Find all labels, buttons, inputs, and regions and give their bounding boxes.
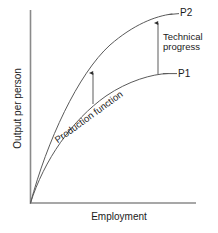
production-function-diagram: P2 P1 Technicalprogress Production funct… — [0, 0, 218, 233]
curve-p1 — [31, 74, 169, 204]
y-axis-label: Output per person — [13, 54, 24, 162]
x-axis-label: Employment — [64, 212, 174, 223]
technical-progress-line-2: progress — [163, 42, 203, 52]
curve-p2-leader — [168, 14, 179, 15]
curve-label-p1: P1 — [178, 69, 190, 80]
technical-progress-label: Technicalprogress — [163, 32, 203, 53]
curve-label-p2: P2 — [180, 8, 192, 19]
